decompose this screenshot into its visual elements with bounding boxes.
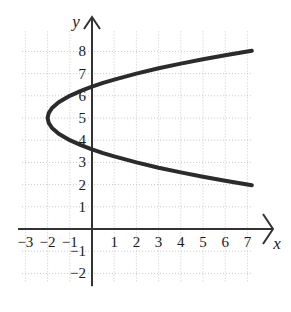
graph-canvas: xy−3−2−11234567−2−112345678 (0, 0, 291, 312)
x-tick-label: 3 (155, 234, 163, 250)
x-tick-label: 6 (221, 234, 229, 250)
y-axis-label: y (70, 12, 80, 31)
y-tick-label: 2 (79, 177, 87, 193)
y-tick-label: 7 (79, 66, 87, 82)
x-tick-label: 5 (199, 234, 207, 250)
coordinate-plane-figure: xy−3−2−11234567−2−112345678 (0, 0, 291, 312)
x-tick-label: −3 (17, 234, 33, 250)
y-tick-label: 1 (79, 199, 87, 215)
y-tick-label: 5 (79, 110, 87, 126)
x-axis-label: x (272, 234, 281, 253)
y-tick-label: −2 (70, 265, 86, 281)
x-tick-label: 4 (177, 234, 185, 250)
x-tick-label: 7 (244, 234, 252, 250)
y-tick-label: −1 (70, 243, 86, 259)
y-tick-label: 3 (79, 154, 87, 170)
x-tick-label: 1 (110, 234, 118, 250)
x-tick-label: −2 (40, 234, 56, 250)
y-tick-label: 8 (79, 43, 87, 59)
x-tick-label: 2 (133, 234, 141, 250)
